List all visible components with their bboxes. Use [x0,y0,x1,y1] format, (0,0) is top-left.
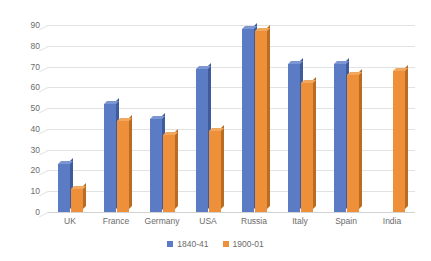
bar-column[interactable] [196,69,208,212]
bar-group [139,25,185,212]
x-axis-label-uk: UK [64,216,76,226]
y-axis-tick-label: 50 [31,103,40,113]
legend-swatch-icon [223,241,229,247]
bar-top [117,118,132,121]
bar-group [231,25,277,212]
bar-1840-41[interactable] [334,64,346,212]
x-axis-label-india: India [383,216,401,226]
bar-face [334,64,346,212]
bar-side [405,65,408,209]
y-axis-tick-label: 30 [31,145,40,155]
x-axis-label-spain: Spain [335,216,357,226]
bar-1840-41[interactable] [242,29,254,212]
bar-top [196,66,211,69]
legend-item[interactable]: 1900-01 [223,239,264,249]
bar-top [150,116,165,119]
bar-face [288,64,300,212]
bar-top [347,72,362,75]
bar-1900-01[interactable] [255,31,267,212]
y-axis-tick-label: 20 [31,165,40,175]
bar-1900-01[interactable] [117,121,129,212]
bar-column[interactable] [334,64,346,212]
bar-side [221,125,224,209]
bar-group [47,25,93,212]
x-axis-label-germany: Germany [145,216,180,226]
bar-group [369,25,415,212]
bar-side [359,69,362,209]
bar-top [209,128,224,131]
gridline [47,212,415,213]
bar-column[interactable] [163,135,175,212]
bar-1900-01[interactable] [393,71,405,212]
bar-1840-41[interactable] [196,69,208,212]
bar-column[interactable] [301,83,313,212]
x-axis-label-france: France [103,216,129,226]
y-axis-tick-label: 90 [31,20,40,30]
plot-area: 0102030405060708090 [47,25,415,212]
y-axis-tick-label: 70 [31,62,40,72]
bar-group [323,25,369,212]
bar-1900-01[interactable] [163,135,175,212]
bar-column[interactable] [117,121,129,212]
bar-face [393,71,405,212]
bar-face [347,75,359,212]
bar-column[interactable] [255,31,267,212]
bar-face [163,135,175,212]
bar-top [393,68,408,71]
bar-side [313,77,316,209]
legend: 1840-411900-01 [0,239,431,249]
x-axis-label-usa: USA [199,216,216,226]
bar-column[interactable] [71,189,83,212]
legend-swatch-icon [167,241,173,247]
axis-floor-edge [39,212,48,217]
bar-face [150,119,162,213]
bar-face [196,69,208,212]
bar-1900-01[interactable] [209,131,221,212]
bar-face [71,189,83,212]
bar-face [255,31,267,212]
bar-1900-01[interactable] [71,189,83,212]
bar-column[interactable] [393,71,405,212]
bar-column[interactable] [104,104,116,212]
bar-column[interactable] [58,164,70,212]
bar-top [104,101,119,104]
bar-top [71,186,86,189]
bar-column[interactable] [150,119,162,213]
legend-label: 1900-01 [233,239,264,249]
bar-face [209,131,221,212]
bar-group [277,25,323,212]
bar-face [301,83,313,212]
bar-face [117,121,129,212]
legend-label: 1840-41 [177,239,208,249]
bar-1900-01[interactable] [301,83,313,212]
y-axis-tick-label: 0 [35,207,40,217]
y-axis-tick-label: 10 [31,186,40,196]
bar-1840-41[interactable] [150,119,162,213]
y-axis-tick-label: 60 [31,82,40,92]
bar-chart: 0102030405060708090 UKFranceGermanyUSARu… [0,0,431,261]
bar-1900-01[interactable] [347,75,359,212]
bar-1840-41[interactable] [58,164,70,212]
bar-column[interactable] [288,64,300,212]
x-axis-label-italy: Italy [292,216,308,226]
bar-top [163,132,178,135]
bar-1840-41[interactable] [288,64,300,212]
y-axis-tick-label: 80 [31,41,40,51]
bar-column[interactable] [242,29,254,212]
bar-side [175,129,178,209]
y-axis-tick-label: 40 [31,124,40,134]
bar-group [185,25,231,212]
x-axis-label-russia: Russia [241,216,267,226]
bar-column[interactable] [347,75,359,212]
legend-item[interactable]: 1840-41 [167,239,208,249]
bar-column[interactable] [209,131,221,212]
bar-group [93,25,139,212]
bar-face [242,29,254,212]
bar-face [104,104,116,212]
bar-1840-41[interactable] [104,104,116,212]
bar-face [58,164,70,212]
bar-side [129,115,132,209]
bar-side [267,25,270,209]
bar-top [242,26,257,29]
bar-top [301,80,316,83]
